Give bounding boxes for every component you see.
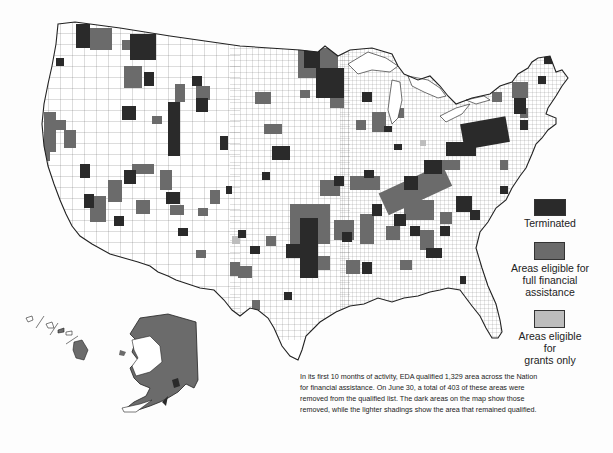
hawaii-inset	[26, 316, 88, 360]
legend-label-full-financial: Areas eligible for full financial assist…	[505, 262, 595, 298]
legend-swatch-full-financial	[534, 242, 565, 260]
legend-line: Areas eligible	[505, 330, 595, 342]
alaska-inset	[119, 314, 198, 412]
legend-label-terminated: Terminated	[512, 217, 588, 229]
legend-line: for	[505, 342, 595, 354]
legend-line: full financial	[505, 274, 595, 286]
legend-label-grants-only: Areas eligible for grants only	[505, 330, 595, 366]
legend-line: Areas eligible for	[505, 262, 595, 274]
map-caption: In its first 10 months of activity, EDA …	[300, 371, 538, 415]
legend-line: assistance	[505, 286, 595, 298]
legend-swatch-terminated	[534, 199, 566, 216]
legend-line: grants only	[505, 354, 595, 366]
eda-map-figure: Terminated Areas eligible for full finan…	[0, 0, 613, 453]
legend-swatch-grants-only	[534, 310, 565, 328]
